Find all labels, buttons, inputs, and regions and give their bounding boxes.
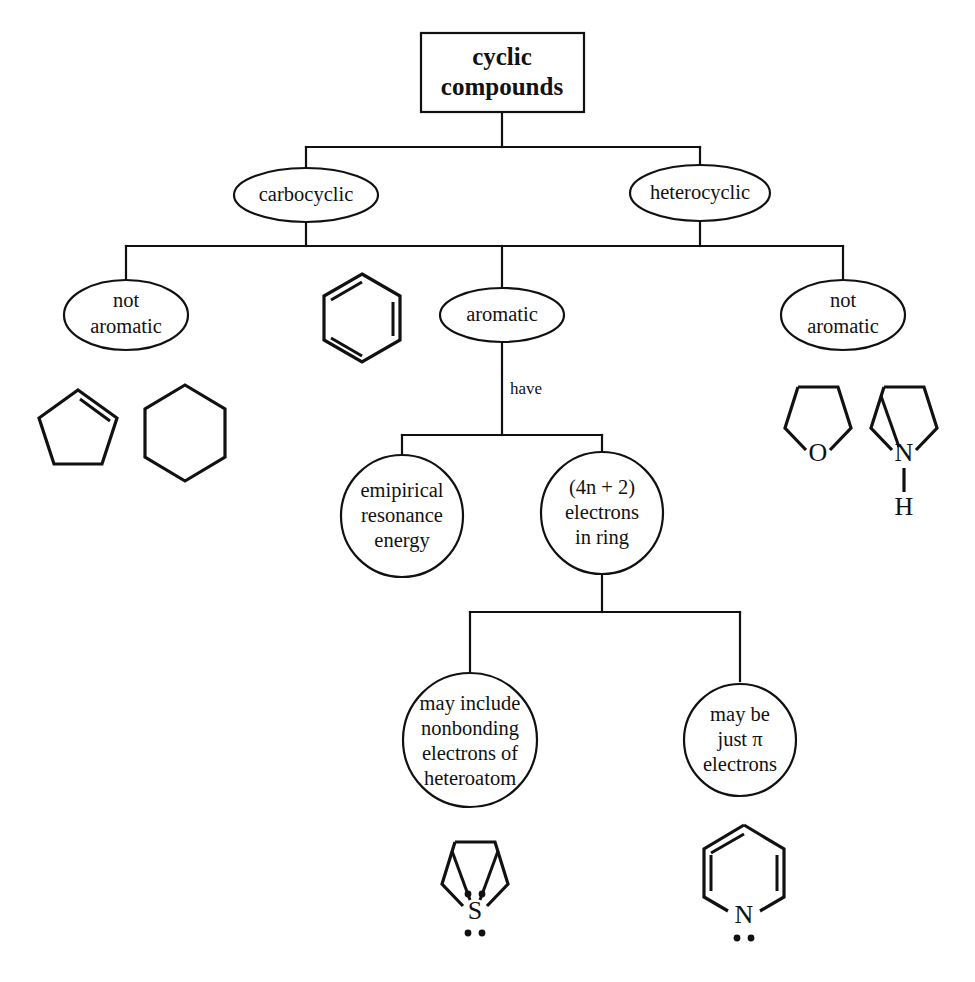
node-nonbonding-electrons-heteroatom: may include nonbonding electrons of hete…: [403, 673, 537, 807]
title-box-node: cyclic compounds: [421, 33, 584, 112]
nonbonding-line-1: may include: [420, 692, 521, 715]
pyridine-lone-pair-dot-1: [734, 935, 741, 942]
node-not-aromatic-left: not aromatic: [64, 280, 188, 350]
molecule-pyridine: N: [704, 825, 784, 941]
pyrroline-hydrogen-label: H: [895, 492, 914, 521]
molecule-cyclopentene: [39, 390, 117, 464]
pyridine-lone-pair-dot-2: [748, 935, 755, 942]
node-aromatic: aromatic: [440, 288, 564, 342]
edge-label-have: have: [510, 379, 542, 398]
not-aromatic-left-line-1: not: [113, 289, 140, 311]
heterocyclic-label: heterocyclic: [650, 181, 750, 204]
pyridine-ring-bonds: [704, 825, 784, 911]
node-carbocyclic: carbocyclic: [234, 168, 378, 222]
nonbonding-line-4: heteroatom: [424, 767, 516, 789]
pi-line-1: may be: [710, 703, 770, 726]
title-line-2: compounds: [441, 73, 564, 100]
pi-line-2: just π: [716, 728, 763, 751]
electrons-line-2: electrons: [565, 501, 639, 523]
thiophene-sulfur-label: S: [468, 896, 482, 925]
pyridine-nitrogen-label: N: [735, 900, 754, 929]
not-aromatic-right-line-2: aromatic: [807, 315, 879, 337]
electrons-line-1: (4n + 2): [569, 476, 635, 499]
pi-line-3: electrons: [703, 753, 777, 775]
resonance-line-1: emipirical: [360, 479, 443, 502]
nonbonding-line-2: nonbonding: [421, 717, 519, 740]
node-empirical-resonance-energy: emipirical resonance energy: [341, 455, 463, 577]
nonbonding-line-3: electrons of: [422, 742, 518, 764]
molecule-cyclohexane: [145, 385, 225, 481]
cyclic-compounds-flowchart: cyclic compounds carbocyclic heterocycli…: [0, 0, 975, 982]
not-aromatic-left-line-2: aromatic: [90, 315, 162, 337]
cyclohexane-ring: [145, 385, 225, 481]
pyrroline-nitrogen-label: N: [895, 438, 914, 467]
thiophene-lone-pair-bottom-dot-2: [479, 930, 486, 937]
thf-oxygen-label: O: [809, 438, 828, 467]
not-aromatic-right-line-1: not: [830, 289, 857, 311]
resonance-line-3: energy: [374, 529, 430, 552]
benzene-ring: [324, 274, 400, 362]
electrons-line-3: in ring: [575, 526, 629, 549]
flowchart-diagram: cyclic compounds carbocyclic heterocycli…: [0, 0, 975, 982]
node-heterocyclic: heterocyclic: [630, 165, 770, 221]
molecule-benzene: [324, 274, 400, 362]
title-line-1: cyclic: [472, 43, 532, 70]
molecule-pyrroline: N H: [871, 387, 937, 521]
node-not-aromatic-right: not aromatic: [781, 280, 905, 350]
cyclopentene-ring: [39, 390, 117, 464]
carbocyclic-label: carbocyclic: [259, 183, 353, 206]
resonance-line-2: resonance: [361, 504, 443, 526]
node-four-n-plus-two-electrons: (4n + 2) electrons in ring: [541, 452, 663, 574]
node-just-pi-electrons: may be just π electrons: [684, 684, 796, 796]
molecule-tetrahydrofuran: O: [785, 387, 851, 467]
aromatic-label: aromatic: [466, 303, 538, 325]
thiophene-lone-pair-bottom-dot-1: [465, 930, 472, 937]
molecule-thiophene: S: [442, 842, 508, 936]
